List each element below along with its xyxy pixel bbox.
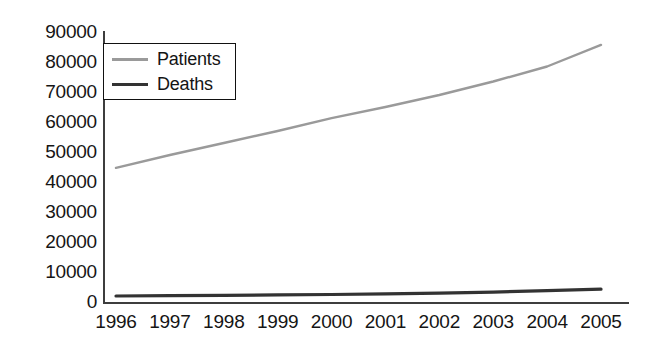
line-chart: 9000080000700006000050000400003000020000…	[0, 0, 656, 344]
plot-area	[0, 0, 656, 344]
chart-legend: Patients Deaths	[103, 43, 236, 100]
legend-entry-patients: Patients	[112, 46, 220, 72]
legend-swatch-deaths	[112, 83, 148, 86]
legend-label-patients: Patients	[157, 50, 220, 68]
legend-label-deaths: Deaths	[157, 75, 213, 93]
legend-entry-deaths: Deaths	[112, 71, 213, 97]
series-line-deaths	[116, 289, 601, 296]
legend-swatch-patients	[112, 58, 148, 61]
